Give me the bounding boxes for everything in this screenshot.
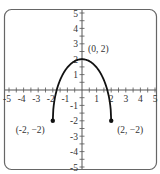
endpoint-dot (51, 119, 55, 123)
y-tick-label: 3 (73, 39, 78, 49)
x-tick-label: -4 (18, 94, 26, 104)
x-tick-label: 5 (153, 94, 158, 104)
y-tick-label: -5 (70, 163, 78, 173)
x-tick-label: 1 (94, 94, 99, 104)
y-tick-label: -1 (70, 101, 78, 111)
y-tick-label: 4 (73, 24, 78, 34)
x-tick-label: -3 (32, 94, 40, 104)
y-tick-label: -4 (70, 147, 78, 157)
endpoint-dot (109, 119, 113, 123)
y-tick-label: 5 (73, 9, 78, 19)
x-tick-label: 3 (123, 94, 128, 104)
y-tick-label: -2 (70, 116, 78, 126)
y-tick-label: 1 (73, 70, 78, 80)
point-label: (-2, −2) (16, 125, 45, 136)
y-tick-label: -3 (70, 132, 78, 142)
point-label: (2, −2) (117, 125, 143, 136)
x-tick-label: -5 (3, 94, 11, 104)
x-tick-label: 4 (138, 94, 143, 104)
x-tick-label: -1 (61, 94, 69, 104)
point-label: (0, 2) (88, 44, 109, 55)
graph: -5-4-3-2-112345-5-4-3-2-112345 (0, 2)(-2… (0, 0, 160, 174)
